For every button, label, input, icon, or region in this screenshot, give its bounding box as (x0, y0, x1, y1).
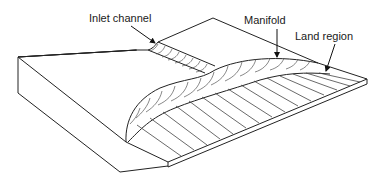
die-diagram: Inlet channel Manifold Land region (0, 0, 383, 182)
manifold (126, 58, 330, 142)
die-drawing (0, 0, 383, 182)
label-land-region: Land region (295, 30, 353, 42)
label-inlet-channel: Inlet channel (89, 12, 151, 24)
inlet-arrow-icon (131, 26, 155, 43)
label-manifold: Manifold (244, 14, 286, 26)
inlet-channel (148, 42, 215, 73)
land-region-lines (137, 73, 360, 156)
